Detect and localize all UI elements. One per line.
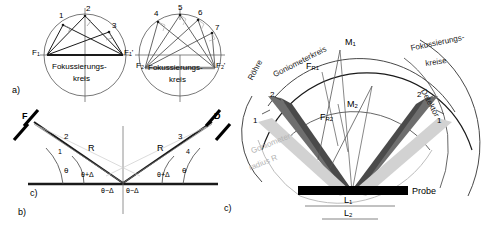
l2-sub: 2 <box>349 212 352 218</box>
focus-label-fr1: FR1 <box>306 62 319 72</box>
focus-label-fr2: FR2 <box>320 113 333 123</box>
m2-letter: M <box>347 99 355 109</box>
focus-label-f2-prime: F2' <box>216 62 225 70</box>
ray-label-3: 3 <box>178 133 182 141</box>
detector-label-d: D <box>214 112 221 121</box>
panel-b-ray-group <box>14 110 230 214</box>
ray-label-1: 1 <box>58 148 62 155</box>
fr2-sub: R2 <box>326 116 334 122</box>
radius-label-left-r: R <box>88 144 95 153</box>
angle-label-theta-left: θ <box>64 167 68 175</box>
focus-label-f2: F2 <box>136 62 144 70</box>
length-label-l2: L2 <box>344 209 352 219</box>
m2-sub: 2 <box>355 103 358 109</box>
point-label-1: 1 <box>59 12 63 20</box>
panel-label-c-right: c) <box>224 204 232 213</box>
ray-label-2: 2 <box>64 133 68 141</box>
panel-label-c-left: c) <box>30 189 38 198</box>
radius-label-right-r: R <box>157 144 164 153</box>
focus-f2-sub: 2 <box>141 64 144 70</box>
angle-label-theta-minus-delta-right: θ−Δ <box>126 187 139 194</box>
panel-label-b: b) <box>18 208 26 217</box>
angle-label-theta-right: θ <box>182 167 186 175</box>
fr1-sub: R1 <box>312 65 320 71</box>
figure-root: 1 2 3 F1 F1' Fokussierungs- kreis 4 5 6 … <box>0 0 492 229</box>
point-label-7: 7 <box>215 24 219 32</box>
panel-c-point-label-left-1: 1 <box>253 117 257 125</box>
panel-a-left-circle-group <box>40 8 130 102</box>
panel-a-right-circle-group <box>135 8 225 102</box>
m1-letter: M <box>345 37 353 47</box>
caption-fokussierungskreis-right-line1: Fokussierungs- <box>148 64 203 72</box>
l1-sub: 1 <box>349 199 352 205</box>
sample-label-probe: Probe <box>412 187 436 196</box>
point-label-3: 3 <box>112 22 116 30</box>
midpoint-label-m1: M1 <box>345 38 356 48</box>
focus-label-f1: F1 <box>32 49 40 57</box>
source-label-f: F <box>22 112 28 121</box>
point-label-2: 2 <box>86 5 90 13</box>
ray-label-4: 4 <box>186 148 190 155</box>
panel-c-point-label-right-2: 2 <box>417 91 421 99</box>
caption-fokussierungskreis-left-line2: kreis <box>73 75 90 83</box>
panel-c-point-label-left-2: 2 <box>270 91 274 99</box>
m1-sub: 1 <box>353 41 356 47</box>
point-label-6: 6 <box>198 9 202 17</box>
point-label-4: 4 <box>154 10 158 18</box>
panel-c-point-label-right-1: 1 <box>437 117 441 125</box>
angle-label-theta-minus-delta-left: θ−Δ <box>101 187 114 194</box>
angle-label-theta-plus-delta-right: θ+Δ <box>157 171 170 178</box>
caption-fokussierungskreis-right-line2: kreis <box>169 76 186 84</box>
focus-f1p-prime: ' <box>132 48 134 57</box>
length-label-l1: L1 <box>344 196 352 206</box>
point-label-5: 5 <box>178 4 182 12</box>
midpoint-label-m2: M2 <box>347 100 358 110</box>
focus-f2p-prime: ' <box>224 61 226 70</box>
focus-label-f1-prime: F1' <box>124 49 133 57</box>
angle-label-theta-plus-delta-left: θ+Δ <box>81 171 94 178</box>
focus-f1-sub: 1 <box>37 51 40 57</box>
caption-fokussierungskreis-left-line1: Fokussierungs- <box>52 63 107 71</box>
panel-label-a: a) <box>12 86 20 95</box>
